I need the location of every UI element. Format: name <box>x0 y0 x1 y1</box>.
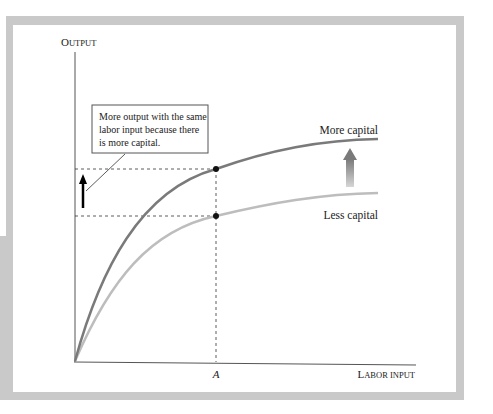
y-axis-label: OUTPUT <box>61 36 97 48</box>
label-less-capital: Less capital <box>323 209 378 222</box>
callout-line-1: More output with the same <box>99 111 207 122</box>
x-axis-label: LABOR INPUT <box>357 368 415 380</box>
callout-line-3: is more capital. <box>99 137 160 148</box>
point-more-capital-at-A <box>213 166 219 172</box>
point-less-capital-at-A <box>213 213 219 219</box>
x-tick-A: A <box>212 368 220 380</box>
label-more-capital: More capital <box>320 124 378 137</box>
figure-frame <box>0 16 464 400</box>
production-function-chart: OUTPUT LABOR INPUT A More capital Less c… <box>0 0 493 414</box>
callout-line-2: labor input because there <box>99 124 200 135</box>
